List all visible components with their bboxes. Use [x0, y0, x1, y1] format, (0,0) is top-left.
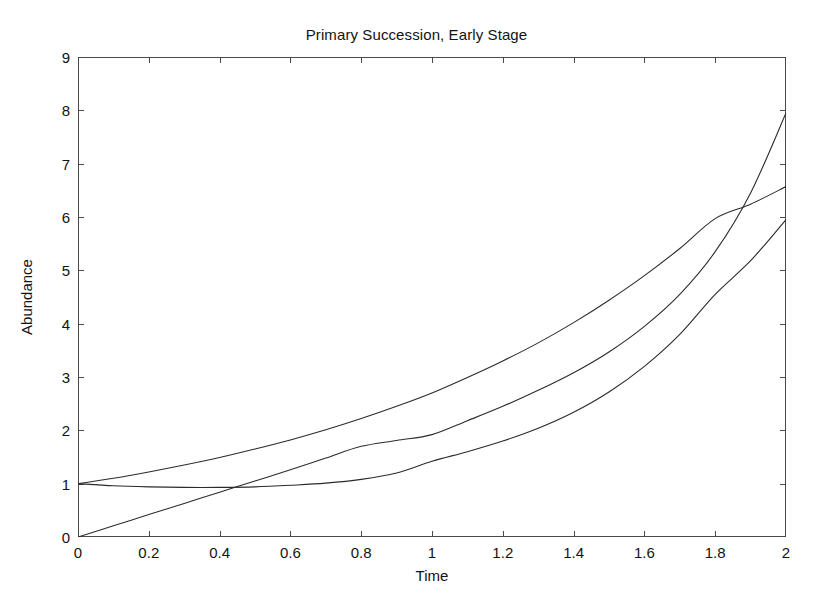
y-tick-label: 8 — [46, 102, 70, 119]
chart-figure: Primary Succession, Early Stage Time Abu… — [0, 0, 833, 600]
y-tick-label: 2 — [46, 422, 70, 439]
x-tick-label: 1.2 — [492, 544, 513, 561]
x-tick-label: 0.4 — [209, 544, 230, 561]
x-axis-label: Time — [416, 567, 449, 584]
x-tick-label: 1.4 — [563, 544, 584, 561]
x-tick-label: 0 — [74, 544, 82, 561]
x-tick-label: 0.6 — [280, 544, 301, 561]
y-tick-label: 9 — [46, 49, 70, 66]
y-tick-label: 3 — [46, 369, 70, 386]
y-tick-label: 4 — [46, 315, 70, 332]
y-axis-label: Abundance — [18, 259, 35, 335]
y-tick-label: 6 — [46, 209, 70, 226]
x-tick-label: 1 — [428, 544, 436, 561]
x-tick-label: 0.8 — [351, 544, 372, 561]
y-tick-label: 5 — [46, 262, 70, 279]
y-tick-label: 1 — [46, 475, 70, 492]
x-tick-label: 2 — [782, 544, 790, 561]
chart-title: Primary Succession, Early Stage — [0, 26, 833, 43]
x-tick-label: 0.2 — [138, 544, 159, 561]
y-tick-label: 0 — [46, 529, 70, 546]
x-tick-label: 1.8 — [705, 544, 726, 561]
plot-canvas — [78, 57, 786, 537]
plot-area — [78, 57, 786, 537]
y-tick-label: 7 — [46, 155, 70, 172]
x-tick-label: 1.6 — [634, 544, 655, 561]
